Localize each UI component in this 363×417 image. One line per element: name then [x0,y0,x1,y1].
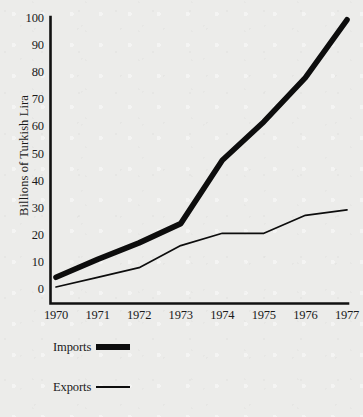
line-chart-figure: Billions of Turkish Lira 100 90 80 70 60… [0,0,363,417]
plot-area [0,0,363,417]
legend-thick-line-swatch [96,344,130,350]
x-tick-label-1970: 1970 [35,309,77,322]
x-tick-label-1976: 1976 [284,309,326,322]
x-tick-label-1975: 1975 [243,309,285,322]
legend-label-imports: Imports [53,341,91,354]
legend-item-exports: Exports [53,381,130,394]
x-tick-label-1974: 1974 [201,309,243,322]
legend-label-exports: Exports [53,381,91,394]
series-line-exports [56,210,347,287]
x-tick-label-1973: 1973 [160,309,202,322]
x-tick-label-1977: 1977 [326,309,363,322]
legend-thin-line-swatch [96,386,130,388]
legend-item-imports: Imports [53,341,130,354]
x-tick-label-1971: 1971 [77,309,119,322]
x-tick-label-1972: 1972 [118,309,160,322]
